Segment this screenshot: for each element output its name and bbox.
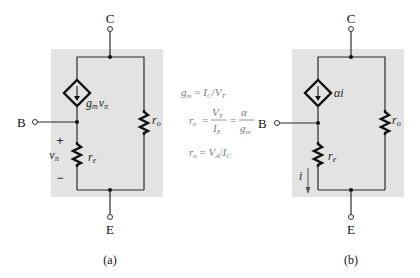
svg-text:gm: gm: [240, 122, 251, 136]
alpha-i-label: αi: [334, 86, 344, 100]
svg-text:IE: IE: [212, 122, 222, 136]
base-terminal-a: [33, 120, 38, 125]
equation-re: re = VT IE = α gm: [189, 106, 254, 136]
equation-gm: gm = IC/VT: [181, 86, 226, 100]
current-i-label: i: [299, 169, 302, 183]
svg-text:=: =: [230, 114, 236, 126]
collector-terminal-a: [108, 27, 113, 32]
collector-label-b: C: [347, 11, 356, 26]
base-label-a: B: [17, 115, 26, 130]
hybrid-pi-t-model-diagram: C gmvπ B re + vπ − ro E: [0, 0, 420, 278]
svg-text:=: =: [202, 114, 208, 126]
equations: gm = IC/VT re = VT IE = α gm ro = VA/IC: [181, 86, 254, 160]
minus-sign: −: [56, 171, 63, 185]
collector-terminal-b: [349, 27, 354, 32]
emitter-label-b: E: [347, 222, 355, 237]
collector-node-a: [108, 55, 112, 59]
svg-text:α: α: [241, 106, 247, 118]
collector-node-b: [349, 55, 353, 59]
plus-sign: +: [56, 134, 63, 148]
equation-ro: ro = VA/IC: [189, 146, 231, 160]
figure-b: C αi B re i ro E (b): [258, 11, 404, 267]
collector-label-a: C: [106, 11, 115, 26]
emitter-label-a: E: [106, 222, 114, 237]
svg-text:re: re: [189, 114, 196, 128]
figure-a: C gmvπ B re + vπ − ro E: [17, 11, 163, 267]
emitter-terminal-b: [349, 215, 354, 220]
caption-b: (b): [344, 253, 358, 267]
caption-a: (a): [103, 253, 116, 267]
svg-text:VT: VT: [212, 106, 224, 120]
emitter-terminal-a: [108, 215, 113, 220]
base-terminal-b: [275, 121, 280, 126]
base-label-b: B: [258, 116, 267, 131]
base-node-b: [316, 121, 320, 125]
base-node-a: [75, 120, 79, 124]
